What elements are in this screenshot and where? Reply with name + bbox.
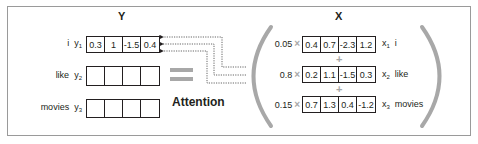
x-row-2-vector: 0.2 1.1 -1.5 0.3 xyxy=(302,66,376,83)
x1-cell-3: -2.3 xyxy=(339,37,357,52)
x3-cell-2: 1.3 xyxy=(321,97,339,112)
weight-value: 0.15 xyxy=(275,100,293,110)
x-row-2-sub: 2 xyxy=(387,74,390,80)
x-row-3-sub: 3 xyxy=(387,104,390,110)
times-icon: × xyxy=(294,99,300,110)
x3-cell-4: -1.2 xyxy=(357,97,375,112)
x-row-2-label: x2 like xyxy=(382,69,408,80)
x-row-3-word: movies xyxy=(395,99,424,109)
x2-cell-2: 1.1 xyxy=(321,67,339,82)
x-row-3-label: x3 movies xyxy=(382,99,423,110)
x-row-1-sub: 1 xyxy=(387,43,390,49)
arrow-x1-to-y1 xyxy=(163,37,246,67)
x2-cell-3: -1.5 xyxy=(339,67,357,82)
left-paren-icon xyxy=(254,27,272,126)
times-icon: × xyxy=(294,69,300,80)
right-paren-icon xyxy=(422,27,440,126)
times-icon: × xyxy=(294,38,300,49)
x3-cell-1: 0.7 xyxy=(303,97,321,112)
x1-cell-4: 1.2 xyxy=(357,37,375,52)
x-row-3-vector: 0.7 1.3 0.4 -1.2 xyxy=(302,96,376,113)
x-row-1-weight: 0.05× xyxy=(275,38,300,49)
x-row-2-word: like xyxy=(395,69,409,79)
x3-cell-3: 0.4 xyxy=(339,97,357,112)
x-row-1-label: x1 i xyxy=(382,38,397,49)
x-row-1-word: i xyxy=(395,38,397,48)
x1-cell-2: 0.7 xyxy=(321,37,339,52)
x-row-1-vector: 0.4 0.7 -2.3 1.2 xyxy=(302,36,376,53)
weight-value: 0.8 xyxy=(280,70,293,80)
arrow-x2-to-y1 xyxy=(163,44,246,75)
plus-icon-2: + xyxy=(336,84,342,95)
x1-cell-1: 0.4 xyxy=(303,37,321,52)
weight-value: 0.05 xyxy=(275,39,293,49)
plus-icon-1: + xyxy=(336,54,342,65)
x-row-3-weight: 0.15× xyxy=(275,99,300,110)
x2-cell-1: 0.2 xyxy=(303,67,321,82)
x2-cell-4: 0.3 xyxy=(357,67,375,82)
x-row-2-weight: 0.8× xyxy=(280,69,300,80)
